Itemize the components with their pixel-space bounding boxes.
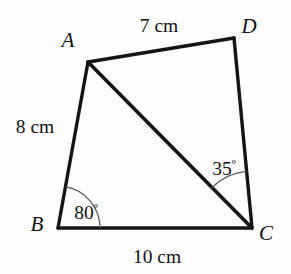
angle-value-C: 35 — [212, 158, 232, 179]
geometry-figure-canvas: A B C D 7 cm 8 cm 10 cm 80º 35º — [0, 0, 291, 274]
angle-value-B: 80 — [74, 202, 94, 223]
vertex-label-B: B — [31, 212, 44, 236]
angle-label-C: 35º — [212, 156, 236, 180]
length-label-AD: 7 cm — [140, 15, 178, 36]
length-label-BC: 10 cm — [133, 246, 181, 267]
length-label-AB: 8 cm — [16, 116, 54, 137]
vertex-label-A: A — [60, 28, 75, 52]
vertex-label-D: D — [240, 14, 256, 38]
degree-symbol-B: º — [94, 200, 98, 215]
side-AD — [88, 38, 234, 62]
side-DC — [234, 38, 252, 228]
diagonal-AC — [88, 62, 252, 228]
degree-symbol-C: º — [232, 156, 236, 171]
vertex-label-C: C — [259, 221, 274, 245]
quadrilateral-diagram: A B C D 7 cm 8 cm 10 cm 80º 35º — [0, 0, 291, 274]
angle-label-B: 80º — [74, 200, 98, 224]
